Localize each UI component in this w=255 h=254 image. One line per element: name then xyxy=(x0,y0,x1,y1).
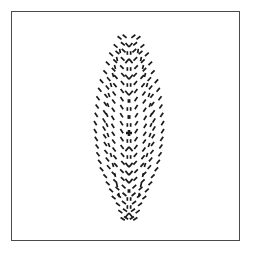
spine-glyph-cross xyxy=(126,130,132,136)
chevron-dash-left xyxy=(116,187,120,190)
chevron-dash-left xyxy=(96,105,99,109)
chevron-dash-left xyxy=(122,201,126,204)
chevron-dash-right xyxy=(148,182,152,185)
chevron-dash-left xyxy=(114,163,117,167)
chevron-dash-left xyxy=(120,121,123,125)
chevron-dash-right xyxy=(136,36,140,39)
chevron-dash-left xyxy=(96,152,99,156)
chevron-dash-right xyxy=(134,57,138,60)
arc-dash-right xyxy=(144,163,145,167)
arc-dash-right xyxy=(141,183,142,187)
chevron-dash-right xyxy=(134,153,137,157)
chevron-dash-right xyxy=(159,105,162,109)
chevron-dash-left xyxy=(104,142,107,146)
chevron-dash-left xyxy=(120,105,123,109)
spine-glyph-blob xyxy=(128,99,131,103)
chevron-dash-right xyxy=(141,163,144,167)
chevron-dash-left xyxy=(123,35,127,38)
chevron-dash-right xyxy=(158,96,161,100)
chevron-dash-left xyxy=(120,129,123,133)
arc-dash-left xyxy=(106,123,108,127)
chevron-dash-left xyxy=(96,145,99,149)
arc-dash-right xyxy=(146,83,147,87)
chevron-dash-left xyxy=(112,124,115,128)
chevron-dash-left xyxy=(106,182,110,185)
chevron-dash-left xyxy=(112,196,116,199)
spine-glyph-chevron-down xyxy=(125,163,132,167)
chevron-dash-left xyxy=(120,169,123,173)
arc-dash-left xyxy=(112,73,113,77)
chevron-dash-right xyxy=(135,97,138,101)
chevron-dash-left xyxy=(107,77,110,81)
chevron-dash-left xyxy=(121,217,125,220)
chevron-dash-left xyxy=(105,94,108,98)
chevron-dash-right xyxy=(157,160,160,164)
chevron-dash-left xyxy=(121,161,124,165)
arc-dash-right xyxy=(146,153,147,157)
spine-glyph-tick-pair xyxy=(127,67,130,71)
chevron-dash-right xyxy=(140,44,144,47)
spine-glyph-chevron-down xyxy=(125,179,132,183)
chevron-dash-right xyxy=(151,142,154,146)
chevron-dash-left xyxy=(103,126,106,130)
chevron-dash-left xyxy=(121,177,125,180)
chevron-dash-right xyxy=(133,73,136,77)
spine-glyph-chevron-down xyxy=(126,43,133,47)
chevron-dash-right xyxy=(155,79,158,83)
chevron-dash-left xyxy=(113,83,116,87)
chevron-dash-left xyxy=(109,189,113,192)
chevron-dash-right xyxy=(144,116,147,120)
chevron-dash-right xyxy=(134,81,137,85)
chevron-dash-left xyxy=(118,210,122,213)
chevron-dash-right xyxy=(134,177,138,180)
chevron-dash-right xyxy=(141,179,145,182)
chevron-dash-left xyxy=(121,81,124,85)
chevron-dash-right xyxy=(152,110,155,114)
chevron-dash-right xyxy=(138,203,142,206)
spine-glyph-tick-pair xyxy=(127,123,130,127)
chevron-dash-right xyxy=(157,88,160,92)
chevron-dash-right xyxy=(143,140,146,144)
chevron-dash-right xyxy=(139,51,143,54)
chevron-dash-left xyxy=(114,75,117,79)
chevron-dash-left xyxy=(105,150,108,154)
spine-glyph-chevron-down xyxy=(125,171,132,175)
arc-dash-left xyxy=(107,103,109,107)
chevron-dash-right xyxy=(141,75,144,79)
chevron-dash-right xyxy=(160,137,163,141)
arc-dash-right xyxy=(149,133,151,137)
chevron-dash-right xyxy=(133,42,137,45)
arc-dash-right xyxy=(138,49,139,53)
chevron-dash-right xyxy=(131,35,135,38)
chevron-dash-left xyxy=(113,155,116,159)
arc-dash-right xyxy=(150,123,152,127)
chevron-dash-left xyxy=(123,209,127,212)
chevron-dash-left xyxy=(112,108,115,112)
spine-glyph-tick-pair xyxy=(127,155,130,159)
spine-glyph-blob xyxy=(128,189,131,193)
chevron-dash-right xyxy=(161,121,164,125)
chevron-dash-left xyxy=(104,102,107,106)
arc-dash-right xyxy=(149,103,151,107)
chevron-dash-right xyxy=(132,201,136,204)
chevron-dash-right xyxy=(135,121,138,125)
chevron-dash-left xyxy=(103,118,106,122)
chevron-dash-left xyxy=(121,153,124,157)
leaf-dash-pattern-graphic xyxy=(12,12,241,242)
spine-glyph-chevron-down xyxy=(125,75,133,80)
chevron-dash-left xyxy=(121,42,125,45)
chevron-dash-left xyxy=(95,137,98,141)
chevron-dash-left xyxy=(109,53,113,56)
chevron-dash-right xyxy=(153,118,156,122)
figure-plot-area xyxy=(12,12,241,242)
chevron-dash-left xyxy=(122,185,126,188)
chevron-dash-right xyxy=(150,150,153,154)
chevron-dash-left xyxy=(123,193,127,196)
chevron-dash-right xyxy=(153,126,156,130)
chevron-dash-right xyxy=(132,49,136,52)
chevron-dash-right xyxy=(152,134,155,138)
arc-dash-left xyxy=(114,65,115,69)
chevron-dash-left xyxy=(121,57,125,60)
chevron-dash-right xyxy=(135,105,138,109)
spine-glyph-chevron-up xyxy=(125,147,132,151)
